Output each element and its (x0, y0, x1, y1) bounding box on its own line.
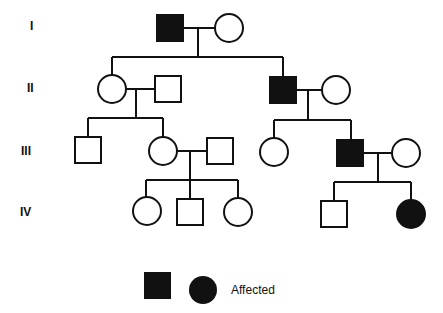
unaffected-female-III-2 (149, 137, 177, 165)
unaffected-female-IV-3 (224, 198, 252, 226)
unaffected-female-II-1 (98, 75, 126, 103)
individuals (75, 14, 425, 228)
affected-male-II-3 (270, 77, 296, 103)
legend-affected-male-square (144, 272, 171, 299)
affected-female-IV-5 (397, 200, 425, 228)
unaffected-male-III-1 (75, 137, 101, 163)
unaffected-female-II-4 (322, 76, 350, 104)
unaffected-female-I-2 (215, 14, 243, 42)
unaffected-female-IV-1 (133, 197, 161, 225)
legend-affected-female-circle (189, 276, 217, 304)
unaffected-female-III-4 (260, 138, 288, 166)
unaffected-male-II-2 (155, 76, 181, 102)
connector-lines (88, 28, 411, 201)
unaffected-male-III-3 (207, 138, 233, 164)
unaffected-male-IV-4 (321, 201, 347, 227)
legend-symbols (144, 272, 217, 304)
affected-male-I-1 (157, 15, 183, 41)
pedigree-chart (0, 0, 443, 313)
unaffected-male-IV-2 (177, 199, 203, 225)
unaffected-female-III-6 (392, 139, 420, 167)
affected-male-III-5 (337, 140, 363, 166)
legend-label: Affected (231, 283, 275, 297)
